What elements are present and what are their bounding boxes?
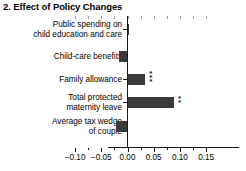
bar	[119, 51, 128, 62]
top-axis-tick	[154, 16, 155, 19]
x-axis-tick	[75, 148, 76, 152]
category-label-line: of couple	[52, 127, 122, 136]
bar	[128, 24, 129, 35]
x-axis-tick	[180, 148, 181, 152]
top-axis-tick	[206, 16, 207, 19]
top-axis-tick	[75, 16, 76, 19]
x-axis-minor-tick	[167, 148, 168, 150]
category-label-line: Family allowance	[59, 75, 122, 84]
category-label-line: Total protected	[66, 93, 122, 102]
category-label: Total protectedmaternity leave	[66, 93, 122, 111]
bar	[128, 74, 145, 85]
top-axis-tick	[128, 16, 129, 19]
y-axis-tick	[123, 29, 127, 30]
category-label: Public spending onchild education and ca…	[33, 20, 122, 38]
x-axis-minor-tick	[193, 148, 194, 150]
significance-marker: ***	[148, 72, 154, 85]
category-label-line: Child-care benefits	[54, 52, 122, 61]
x-axis-minor-tick	[114, 148, 115, 150]
chart-title: 2. Effect of Policy Changes	[3, 1, 122, 12]
plot-area: Public spending onchild education and ca…	[0, 16, 246, 147]
top-axis-tick	[114, 16, 115, 19]
category-label: Child-care benefits	[54, 52, 122, 61]
x-axis-tick	[128, 148, 129, 152]
asterisk-icon: *	[148, 80, 154, 84]
bar	[116, 121, 128, 132]
y-axis-tick	[123, 79, 127, 80]
x-axis-tick	[206, 148, 207, 152]
x-axis-minor-tick	[141, 148, 142, 150]
x-axis-tick-label: 0.15	[186, 153, 226, 162]
category-label: Average tax wedgeof couple	[52, 117, 122, 135]
category-label-line: Average tax wedge	[52, 117, 122, 126]
category-label: Family allowance	[59, 75, 122, 84]
chart-figure: 2. Effect of Policy Changes Public spend…	[0, 0, 246, 171]
significance-marker: **	[177, 97, 183, 105]
top-axis-tick	[180, 16, 181, 19]
x-axis-tick	[101, 148, 102, 152]
category-label-line: child education and care	[33, 30, 122, 39]
y-axis-tick	[123, 102, 127, 103]
top-axis-tick	[167, 16, 168, 19]
top-axis-tick	[88, 16, 89, 19]
top-axis-tick	[193, 16, 194, 19]
asterisk-icon: *	[177, 101, 183, 105]
top-axis-tick	[101, 16, 102, 19]
x-axis-minor-tick	[88, 148, 89, 150]
category-label-line: Public spending on	[33, 20, 122, 29]
x-axis-tick	[154, 148, 155, 152]
top-axis-tick	[141, 16, 142, 19]
category-label-line: maternity leave	[66, 103, 122, 112]
bar	[128, 97, 174, 108]
